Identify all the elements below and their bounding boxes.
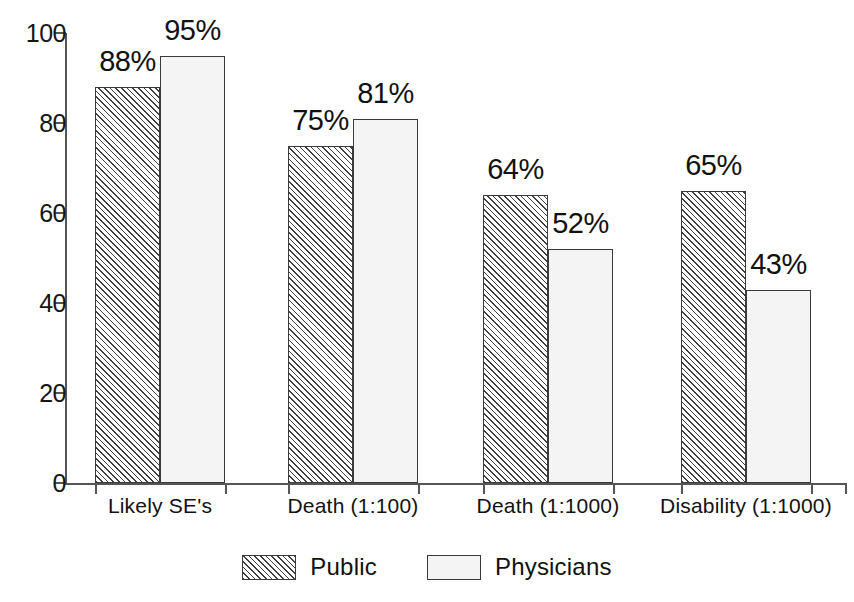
legend-swatch-physicians <box>427 555 481 580</box>
x-axis-tick-mark <box>613 483 615 494</box>
bar-public-3 <box>681 191 746 484</box>
x-axis-tick-mark <box>95 483 97 494</box>
y-axis-tick-label: 0 <box>14 469 66 498</box>
value-label-physicians-0: 95% <box>164 14 221 47</box>
value-label-physicians-1: 81% <box>357 77 414 110</box>
bar-physicians-1 <box>353 119 418 484</box>
y-axis-tick-label: 80 <box>14 109 66 138</box>
y-axis-line <box>65 33 67 484</box>
value-label-public-2: 64% <box>487 153 544 186</box>
x-axis-tick-mark <box>225 483 227 494</box>
bar-physicians-3 <box>746 290 811 484</box>
x-axis-tick-mark <box>811 483 813 494</box>
bar-physicians-0 <box>160 56 225 484</box>
x-axis-tick-mark <box>418 483 420 494</box>
x-axis-tick-mark <box>483 483 485 494</box>
legend-label: Physicians <box>495 553 612 581</box>
value-label-public-3: 65% <box>685 149 742 182</box>
bar-public-1 <box>288 146 353 484</box>
legend-item-physicians[interactable]: Physicians <box>427 553 612 581</box>
bar-public-0 <box>95 87 160 483</box>
value-label-public-1: 75% <box>292 104 349 137</box>
legend-item-public[interactable]: Public <box>242 553 377 581</box>
value-label-physicians-2: 52% <box>552 207 609 240</box>
x-axis-tick-mark <box>288 483 290 494</box>
x-axis-line <box>65 483 846 485</box>
value-label-public-0: 88% <box>99 45 156 78</box>
x-axis-category-label: Likely SE's <box>108 494 212 518</box>
chart-legend: PublicPhysicians <box>0 553 854 581</box>
y-axis-tick-label: 100 <box>14 19 66 48</box>
y-axis-tick-label: 40 <box>14 289 66 318</box>
value-label-physicians-3: 43% <box>750 248 807 281</box>
x-axis-tick-mark <box>681 483 683 494</box>
x-axis-end-tick <box>845 483 847 494</box>
bar-public-2 <box>483 195 548 483</box>
bar-physicians-2 <box>548 249 613 483</box>
bar-chart: 100806040200 88%95%75%81%64%52%65%43% Li… <box>0 0 854 602</box>
x-axis-category-label: Death (1:1000) <box>477 494 620 518</box>
y-axis-tick-label: 60 <box>14 199 66 228</box>
x-axis-category-label: Death (1:100) <box>287 494 418 518</box>
legend-label: Public <box>310 553 377 581</box>
x-axis-category-label: Disability (1:1000) <box>660 494 832 518</box>
legend-swatch-public <box>242 555 296 580</box>
y-axis-tick-label: 20 <box>14 379 66 408</box>
